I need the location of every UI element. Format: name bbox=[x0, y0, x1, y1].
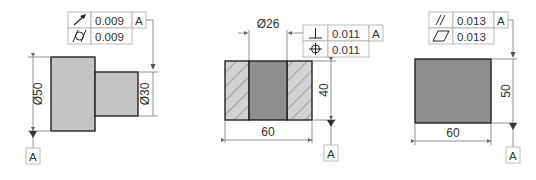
dim-width-60-b: 60 bbox=[446, 126, 460, 140]
dim-height-40: 40 bbox=[317, 83, 331, 97]
left-hatched-wall bbox=[225, 61, 249, 120]
figure-stepped-shaft: 0.009 A 0.009 Ø50 Ø30 A bbox=[26, 12, 158, 164]
figure-bored-block: 0.011 A 0.011 Ø26 40 60 A bbox=[225, 17, 383, 161]
large-cylinder bbox=[51, 57, 95, 131]
datum-label-a-2: A bbox=[327, 148, 335, 160]
dim-width-60-a: 60 bbox=[261, 125, 275, 139]
fcf1-tolerance-1: 0.009 bbox=[95, 15, 124, 27]
fcf3-datum-1: A bbox=[497, 15, 505, 27]
dim-diameter-50: Ø50 bbox=[31, 82, 45, 105]
solid-block bbox=[415, 59, 491, 123]
datum-label-a-3: A bbox=[509, 150, 517, 162]
dim-height-50: 50 bbox=[499, 84, 513, 98]
small-cylinder bbox=[95, 72, 138, 116]
fcf1-tolerance-2: 0.009 bbox=[95, 31, 124, 43]
fcf2-tolerance-1: 0.011 bbox=[332, 28, 360, 40]
figure-rectangular-block: 0.013 A 0.013 50 60 A bbox=[415, 12, 520, 163]
feature-control-frame-1: 0.009 A 0.009 bbox=[68, 12, 146, 44]
fcf1-leader bbox=[146, 20, 153, 66]
feature-control-frame-3: 0.013 A 0.013 bbox=[429, 12, 508, 44]
datum-label-a-1: A bbox=[29, 151, 37, 163]
dim-diameter-30: Ø30 bbox=[138, 82, 152, 105]
right-hatched-wall bbox=[287, 61, 312, 120]
fcf3-tolerance-2: 0.013 bbox=[457, 31, 486, 43]
fcf2-tolerance-2: 0.011 bbox=[332, 44, 360, 56]
bore bbox=[249, 61, 287, 120]
fcf2-datum-1: A bbox=[372, 28, 380, 40]
fcf3-tolerance-1: 0.013 bbox=[457, 15, 486, 27]
dim-bore-diameter-26: Ø26 bbox=[257, 17, 280, 31]
feature-control-frame-2: 0.011 A 0.011 bbox=[303, 25, 383, 57]
fcf1-datum-1: A bbox=[135, 15, 143, 27]
fcf3-leader bbox=[508, 20, 513, 54]
